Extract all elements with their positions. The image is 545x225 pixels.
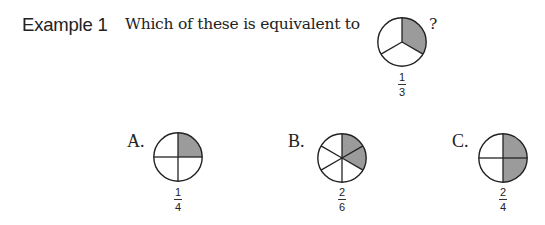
option-a-fraction: 1 4 <box>168 186 188 213</box>
option-a-denominator: 4 <box>168 201 188 213</box>
option-b-denominator: 6 <box>332 201 352 213</box>
fraction-bar <box>174 199 182 200</box>
fraction-bar <box>499 199 507 200</box>
option-c-numerator: 2 <box>493 186 513 198</box>
reference-numerator: 1 <box>392 71 412 83</box>
reference-fraction: 1 3 <box>392 71 412 98</box>
option-c-label[interactable]: C. <box>452 131 469 152</box>
question-mark: ? <box>429 15 437 33</box>
fraction-bar <box>398 84 406 85</box>
fraction-bar <box>338 199 346 200</box>
option-a-pie-chart-icon[interactable] <box>151 130 205 184</box>
option-b-label[interactable]: B. <box>288 131 305 152</box>
reference-denominator: 3 <box>392 86 412 98</box>
option-c-fraction: 2 4 <box>493 186 513 213</box>
example-label: Example 1 <box>22 14 108 36</box>
option-b-numerator: 2 <box>332 186 352 198</box>
question-text: Which of these is equivalent to <box>125 15 360 33</box>
option-a-numerator: 1 <box>168 186 188 198</box>
option-b-pie-chart-icon[interactable] <box>315 131 369 185</box>
option-c-denominator: 4 <box>493 201 513 213</box>
option-a-label[interactable]: A. <box>127 131 145 152</box>
option-b-fraction: 2 6 <box>332 186 352 213</box>
option-c-pie-chart-icon[interactable] <box>476 131 530 185</box>
reference-pie-chart-icon <box>375 15 429 69</box>
